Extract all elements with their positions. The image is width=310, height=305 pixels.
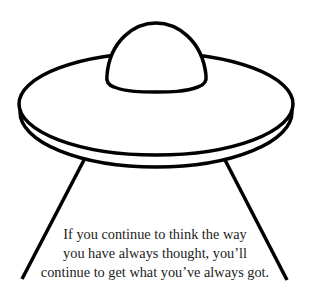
dome-icon: [107, 23, 206, 92]
quote-line-2: you have always thought, you’ll: [0, 244, 310, 263]
quote-line-1: If you continue to think the way: [0, 225, 310, 244]
quote-text: If you continue to think the way you hav…: [0, 225, 310, 282]
ufo-quote-card: If you continue to think the way you hav…: [0, 0, 310, 305]
quote-line-3: continue to get what you’ve always got.: [0, 263, 310, 282]
